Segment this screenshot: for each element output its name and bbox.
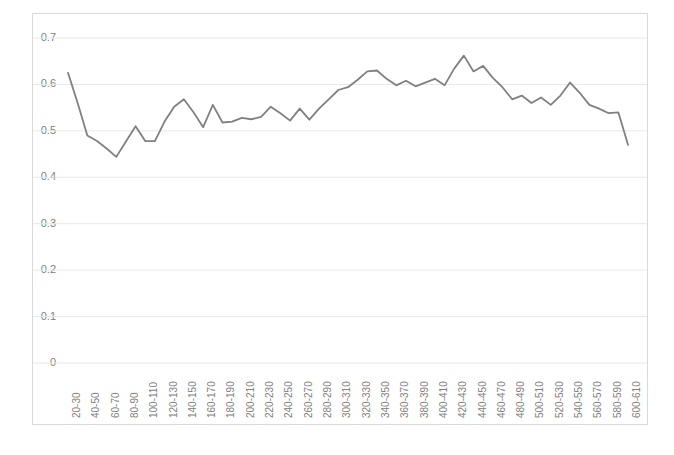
x-axis-tick-label: 600-610 (632, 381, 642, 418)
x-axis-tick-label: 520-530 (555, 381, 565, 418)
x-axis-tick-label: 460-470 (497, 381, 507, 418)
y-axis-tick-label: 0.5 (22, 125, 56, 136)
x-axis-tick-label: 80-90 (130, 392, 140, 418)
y-axis-tick-label: 0.4 (22, 171, 56, 182)
x-axis-tick-label: 300-310 (342, 381, 352, 418)
x-axis-tick-label: 140-150 (188, 381, 198, 418)
x-axis-tick-label: 200-210 (246, 381, 256, 418)
x-axis-tick-label: 580-590 (613, 381, 623, 418)
x-axis-tick-label: 180-190 (226, 381, 236, 418)
x-axis-tick-label: 340-350 (381, 381, 391, 418)
x-axis-tick-label: 420-430 (458, 381, 468, 418)
y-axis-tick-label: 0.3 (22, 218, 56, 229)
y-axis-tick-label: 0 (22, 357, 56, 368)
x-axis-tick-label: 40-50 (91, 392, 101, 418)
x-axis-tick-label: 400-410 (439, 381, 449, 418)
x-axis-tick-label: 120-130 (169, 381, 179, 418)
x-axis-tick-label: 280-290 (323, 381, 333, 418)
x-axis-tick-label: 560-570 (593, 381, 603, 418)
chart-container: 0.70.60.50.40.30.20.10 20-3040-5060-7080… (0, 0, 674, 455)
x-axis-tick-label: 320-330 (362, 381, 372, 418)
y-axis-tick-label: 0.1 (22, 311, 56, 322)
x-axis-tick-label: 540-550 (574, 381, 584, 418)
x-axis-tick-label: 100-110 (149, 382, 159, 418)
x-axis-tick-label: 160-170 (207, 381, 217, 418)
x-axis-tick-label: 240-250 (284, 381, 294, 418)
y-axis-tick-label: 0.2 (22, 264, 56, 275)
x-axis-tick-label: 20-30 (72, 392, 82, 418)
x-axis-tick-label: 60-70 (111, 392, 121, 418)
x-axis-tick-label: 500-510 (535, 381, 545, 418)
x-axis-tick-label: 360-370 (400, 381, 410, 418)
x-axis-tick-label: 480-490 (516, 381, 526, 418)
x-axis-tick-label: 380-390 (420, 381, 430, 418)
x-axis-tick-label: 260-270 (304, 381, 314, 418)
y-axis-tick-label: 0.7 (22, 32, 56, 43)
x-axis-tick-label: 440-450 (478, 381, 488, 418)
chart-plot-frame (32, 13, 648, 425)
x-axis-tick-label: 220-230 (265, 381, 275, 418)
y-axis-tick-label: 0.6 (22, 78, 56, 89)
